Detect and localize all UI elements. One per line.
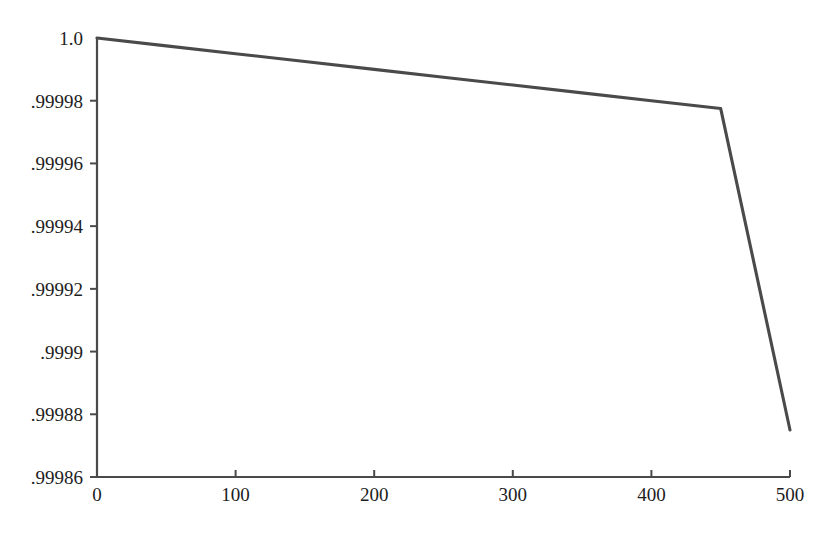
y-axis-tick-label: .99992	[31, 279, 83, 300]
tick-labels-group: 1.0.99998.99996.99994.99992.9999.99988.9…	[31, 28, 805, 505]
series-group	[97, 38, 790, 430]
x-axis-tick-label: 500	[776, 484, 805, 505]
x-axis-tick-label: 100	[221, 484, 250, 505]
line-chart: 1.0.99998.99996.99994.99992.9999.99988.9…	[0, 0, 828, 535]
x-axis-tick-label: 300	[499, 484, 528, 505]
ticks-group	[90, 101, 790, 477]
y-axis-tick-label: .99986	[31, 467, 83, 488]
y-axis-tick-label: .99996	[31, 153, 83, 174]
y-axis-tick-label: .99998	[31, 91, 83, 112]
y-axis-tick-label: .99994	[31, 216, 84, 237]
chart-page: 1.0.99998.99996.99994.99992.9999.99988.9…	[0, 0, 828, 535]
y-axis-tick-label: .9999	[40, 342, 83, 363]
x-axis-tick-label: 400	[637, 484, 666, 505]
data-series-line	[97, 38, 790, 430]
x-axis-tick-label: 0	[92, 484, 102, 505]
y-axis-tick-label: .99988	[31, 404, 83, 425]
y-axis-tick-label: 1.0	[59, 28, 83, 49]
x-axis-tick-label: 200	[360, 484, 389, 505]
